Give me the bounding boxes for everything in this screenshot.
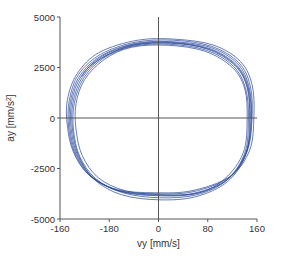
trajectory-line — [72, 43, 250, 200]
x-tick-label: 160 — [249, 223, 265, 234]
x-axis-title: vy [mm/s] — [137, 238, 180, 249]
x-tick-label: 0 — [156, 223, 161, 234]
x-tick-label: -160 — [50, 223, 69, 234]
x-tick-label: -180 — [100, 223, 119, 234]
x-ticks: -160-180080160 — [50, 219, 264, 234]
trajectory-line — [68, 40, 252, 194]
trajectory-curves — [66, 39, 254, 200]
y-tick-label: 0 — [50, 113, 55, 124]
y-ticks: 500025000-2500-5000 — [31, 12, 60, 225]
trajectory-line — [73, 44, 249, 198]
trajectory-line — [75, 45, 247, 195]
y-axis-title: ay [mm/s2] — [5, 94, 17, 141]
y-tick-label: -2500 — [31, 163, 55, 174]
x-tick-label: 80 — [202, 223, 213, 234]
phase-plot: 500025000-2500-5000 -160-180080160 vy [m… — [0, 0, 282, 263]
y-tick-label: 2500 — [34, 62, 55, 73]
y-tick-label: 5000 — [34, 12, 55, 23]
axes — [60, 17, 257, 219]
